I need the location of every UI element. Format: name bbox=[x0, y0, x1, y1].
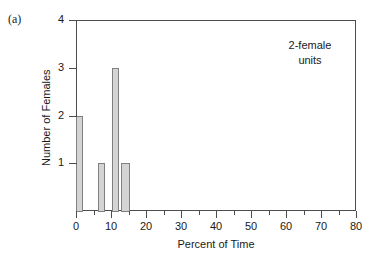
histogram-bar bbox=[76, 116, 83, 213]
x-axis-tick bbox=[181, 211, 182, 218]
x-axis-tick-label: 40 bbox=[201, 220, 231, 232]
figure-panel-a: (a) 010203040506070801234 Percent of Tim… bbox=[0, 0, 381, 265]
y-axis-title: Number of Females bbox=[40, 69, 52, 166]
x-axis-tick-label: 70 bbox=[306, 220, 336, 232]
x-axis-tick-label: 50 bbox=[236, 220, 266, 232]
y-axis-tick bbox=[69, 20, 77, 21]
x-axis-tick bbox=[76, 211, 77, 218]
x-axis-tick-label: 80 bbox=[341, 220, 371, 232]
annotation-line-2: units bbox=[255, 53, 365, 68]
x-axis-tick bbox=[356, 211, 357, 218]
x-axis-tick-label: 60 bbox=[271, 220, 301, 232]
annotation-line-1: 2-female bbox=[255, 38, 365, 53]
histogram-bar bbox=[98, 163, 105, 212]
x-axis-tick bbox=[146, 211, 147, 218]
x-axis-tick bbox=[286, 211, 287, 218]
x-axis-minor-tick bbox=[304, 211, 305, 215]
x-axis-minor-tick bbox=[164, 211, 165, 215]
x-axis-minor-tick bbox=[94, 211, 95, 215]
x-axis-minor-tick bbox=[234, 211, 235, 215]
chart-annotation: 2-female units bbox=[255, 38, 365, 68]
panel-label: (a) bbox=[8, 12, 21, 27]
x-axis-tick-label: 10 bbox=[96, 220, 126, 232]
y-axis-tick bbox=[69, 163, 77, 164]
x-axis-tick-label: 30 bbox=[166, 220, 196, 232]
x-axis-minor-tick bbox=[269, 211, 270, 215]
y-axis-tick bbox=[69, 68, 77, 69]
x-axis-minor-tick bbox=[199, 211, 200, 215]
x-axis-tick bbox=[321, 211, 322, 218]
x-axis-tick-label: 20 bbox=[131, 220, 161, 232]
x-axis-tick-label: 0 bbox=[61, 220, 91, 232]
x-axis-tick bbox=[111, 211, 112, 218]
x-axis-tick bbox=[216, 211, 217, 218]
x-axis-minor-tick bbox=[129, 211, 130, 215]
histogram-bar bbox=[112, 68, 119, 212]
x-axis-tick bbox=[251, 211, 252, 218]
x-axis-title: Percent of Time bbox=[76, 238, 356, 250]
y-axis-tick-label: 4 bbox=[46, 13, 64, 25]
x-axis-minor-tick bbox=[339, 211, 340, 215]
histogram-bar bbox=[121, 163, 130, 212]
y-axis-tick bbox=[69, 116, 77, 117]
